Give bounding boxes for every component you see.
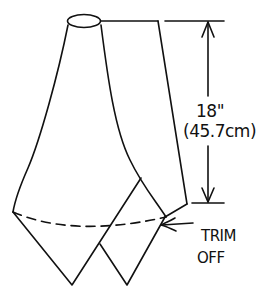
trim-label: TRIM (201, 227, 236, 245)
cone-fabric-drawing (0, 0, 269, 297)
off-label: OFF (197, 249, 225, 267)
left-cone-curve (13, 25, 68, 212)
left-tail-point (13, 178, 141, 285)
top-opening-ellipse (68, 15, 101, 28)
trim-dashed-line (13, 212, 166, 226)
right-tail-line (165, 204, 187, 217)
dimension-inches-label: 18" (196, 101, 224, 121)
trim-pointer-shaft (162, 223, 193, 225)
right-edge-line (158, 21, 187, 204)
dimension-cm-label: (45.7cm) (183, 121, 256, 141)
